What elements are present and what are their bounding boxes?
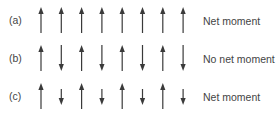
- arrow-up-icon: [79, 7, 84, 33]
- arrow-up-icon: [140, 7, 145, 33]
- arrow-up-icon: [120, 7, 125, 33]
- arrow-up-icon: [59, 7, 64, 33]
- arrow-up-icon: [160, 7, 165, 33]
- arrow-down-icon: [140, 45, 145, 71]
- arrow-down-icon: [99, 89, 104, 105]
- arrow-down-icon: [181, 45, 186, 71]
- arrow-up-icon: [38, 45, 43, 71]
- arrow-down-icon: [140, 89, 145, 105]
- row-a: (a) Net moment: [0, 0, 278, 38]
- arrow-up-icon: [120, 83, 125, 109]
- row-b: (b) No net moment: [0, 38, 278, 76]
- arrow-up-icon: [120, 45, 125, 71]
- arrow-down-icon: [181, 89, 186, 105]
- row-note-a: Net moment: [203, 15, 260, 27]
- arrow-up-icon: [79, 45, 84, 71]
- row-note-c: Net moment: [203, 91, 260, 103]
- arrow-up-icon: [160, 45, 165, 71]
- row-note-b: No net moment: [203, 53, 275, 65]
- arrow-down-icon: [59, 45, 64, 71]
- arrow-up-icon: [38, 7, 43, 33]
- arrow-up-icon: [160, 83, 165, 109]
- arrow-down-icon: [59, 89, 64, 105]
- arrow-up-icon: [99, 7, 104, 33]
- row-c: (c) Net moment: [0, 76, 278, 114]
- arrow-up-icon: [38, 83, 43, 109]
- arrow-down-icon: [99, 45, 104, 71]
- arrow-up-icon: [181, 7, 186, 33]
- arrow-up-icon: [79, 83, 84, 109]
